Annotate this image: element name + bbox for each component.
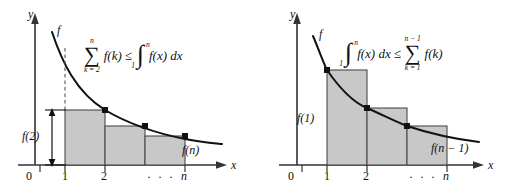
summation-symbol: n − 1 ∑ k = 1 bbox=[404, 42, 422, 64]
tick-label-1: 1 bbox=[62, 170, 68, 182]
sigma-glyph: ∑ bbox=[84, 42, 100, 67]
curve-label-f: f bbox=[319, 28, 322, 40]
sum-lower-limit: k = 2 bbox=[84, 66, 100, 74]
sigma-glyph: ∑ bbox=[405, 40, 421, 65]
sum-lower-limit: k = 1 bbox=[405, 64, 421, 72]
y-axis-label: y bbox=[290, 8, 295, 20]
integral-lower-limit: 1 bbox=[339, 60, 343, 68]
tick-label-2: 2 bbox=[363, 170, 369, 182]
lower-sum-graphic bbox=[0, 0, 258, 188]
integral-glyph: ∫ bbox=[137, 40, 144, 69]
tick-label-n: n bbox=[443, 170, 449, 182]
sum-term: f(k) bbox=[425, 47, 443, 60]
origin-label: 0 bbox=[288, 170, 294, 182]
lower-sum-panel: y x 0 1 2 · · · n f f(2) f(n) n ∑ k = 2 … bbox=[0, 0, 258, 188]
sum-upper-limit: n − 1 bbox=[405, 35, 421, 43]
height-dimension-arrow bbox=[45, 108, 66, 167]
sum-term: f(k) bbox=[104, 49, 122, 62]
x-axis-label: x bbox=[231, 159, 236, 171]
tick-label-1: 1 bbox=[324, 170, 330, 182]
height-label-f2: f(2) bbox=[22, 130, 39, 142]
origin-label: 0 bbox=[26, 170, 32, 182]
tick-label-2: 2 bbox=[101, 170, 107, 182]
rectangle-bars bbox=[65, 110, 185, 165]
integral-lower-limit: 1 bbox=[131, 62, 135, 70]
integral-symbol: n ∫ 1 bbox=[343, 40, 354, 66]
integral-glyph: ∫ bbox=[345, 38, 352, 67]
integral-upper-limit: n bbox=[146, 41, 150, 49]
integral-upper-limit: n bbox=[354, 39, 358, 47]
sum-upper-limit: n bbox=[90, 37, 94, 45]
ellipsis-label: · · · bbox=[409, 171, 437, 183]
integral-test-figure: y x 0 1 2 · · · n f f(2) f(n) n ∑ k = 2 … bbox=[0, 0, 517, 188]
height-label-f1: f(1) bbox=[297, 112, 314, 124]
relation-symbol: ≤ bbox=[125, 49, 132, 62]
summation-symbol: n ∑ k = 2 bbox=[83, 44, 101, 66]
inequality-formula: n ∑ k = 2 f(k) ≤ n ∫ 1 f(x) dx bbox=[83, 42, 183, 68]
y-axis bbox=[293, 13, 301, 165]
integral-term: f(x) dx bbox=[357, 47, 391, 60]
upper-sum-panel: y x 0 1 2 · · · n f f(1) f(n − 1) n ∫ 1 … bbox=[259, 0, 517, 188]
tick-label-n: n bbox=[181, 170, 187, 182]
ellipsis-label: · · · bbox=[147, 171, 175, 183]
last-bar-label-fn-1: f(n − 1) bbox=[431, 142, 468, 154]
relation-symbol: ≤ bbox=[394, 47, 401, 60]
x-axis-label: x bbox=[488, 159, 493, 171]
last-bar-label-fn: f(n) bbox=[182, 144, 199, 156]
y-axis-label: y bbox=[28, 8, 33, 20]
curve-label-f: f bbox=[57, 24, 60, 36]
upper-sum-graphic bbox=[259, 0, 517, 188]
integral-term: f(x) dx bbox=[149, 49, 183, 62]
integral-symbol: n ∫ 1 bbox=[135, 42, 146, 68]
inequality-formula: n ∫ 1 f(x) dx ≤ n − 1 ∑ k = 1 f(k) bbox=[343, 40, 443, 66]
